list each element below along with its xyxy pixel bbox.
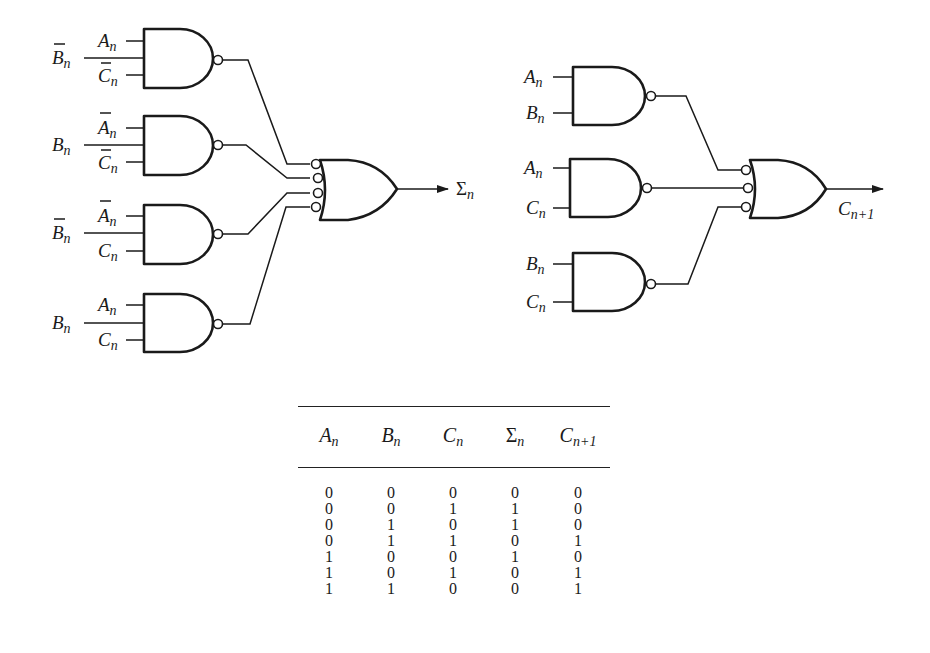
truth-table: An Bn Cn Σn Cn+1 00000 00110 01010 01101… — [298, 406, 610, 597]
cell: 0 — [422, 517, 484, 533]
inversion-bubble — [744, 184, 753, 193]
carry-nand-gate-2: An Cn — [522, 157, 652, 221]
cell: 1 — [546, 581, 610, 597]
inversion-bubble — [214, 230, 223, 239]
inversion-bubble — [312, 203, 321, 212]
input-label-a: An — [522, 157, 543, 181]
cell: 0 — [484, 468, 546, 502]
cell: 0 — [484, 581, 546, 597]
cell: 0 — [422, 468, 484, 502]
table-row: 10010 — [298, 549, 610, 565]
cell: 1 — [422, 501, 484, 517]
nand-gate-3: An Bn Cn — [52, 201, 223, 264]
cell: 1 — [484, 549, 546, 565]
cell: 0 — [422, 549, 484, 565]
carry-nand-gate-1: An Bn — [522, 66, 656, 126]
cell: 0 — [298, 501, 360, 517]
truth-table-header: An Bn Cn Σn Cn+1 — [298, 407, 610, 468]
table-row: 01101 — [298, 533, 610, 549]
input-label-c: Cn — [526, 197, 546, 221]
table-row: 10101 — [298, 565, 610, 581]
inversion-bubble — [742, 203, 751, 212]
inversion-bubble — [214, 56, 223, 65]
cell: 1 — [298, 549, 360, 565]
cell: 1 — [298, 565, 360, 581]
input-label-c: Cn — [526, 291, 546, 315]
inversion-bubble — [312, 160, 321, 169]
table-row: 00110 — [298, 501, 610, 517]
cell: 0 — [298, 468, 360, 502]
cell: 1 — [484, 517, 546, 533]
header-b: Bn — [360, 407, 422, 468]
cell: 0 — [360, 565, 422, 581]
cell: 0 — [360, 549, 422, 565]
input-label-b: Bn — [52, 134, 71, 158]
cell: 0 — [422, 581, 484, 597]
input-label-c: Cn — [98, 240, 118, 264]
cell: 0 — [360, 468, 422, 502]
header-sum: Σn — [484, 407, 546, 468]
cell: 0 — [298, 517, 360, 533]
sum-wires — [222, 60, 310, 324]
inversion-bubble — [742, 166, 751, 175]
or-gate-carry: Cn+1 — [742, 160, 884, 222]
header-a: An — [298, 407, 360, 468]
input-label-c: Cn — [98, 329, 118, 353]
nand-gate-2: An Bn Cn — [52, 113, 223, 176]
table-row: 00000 — [298, 468, 610, 502]
inversion-bubble — [214, 141, 223, 150]
header-carry-out: Cn+1 — [546, 407, 610, 468]
cell: 0 — [546, 501, 610, 517]
inversion-bubble — [643, 184, 652, 193]
input-label-c-bar: Cn — [98, 152, 118, 176]
inversion-bubble — [214, 320, 223, 329]
table-row: 01010 — [298, 517, 610, 533]
logic-diagram: An Bn Cn An Bn Cn An Bn Cn An — [0, 0, 930, 400]
input-label-c-bar: Cn — [98, 65, 118, 89]
cell: 0 — [546, 468, 610, 502]
output-label-carry: Cn+1 — [838, 198, 874, 222]
inversion-bubble — [647, 280, 656, 289]
header-c: Cn — [422, 407, 484, 468]
cell: 1 — [422, 565, 484, 581]
input-label-a-bar: An — [96, 117, 117, 141]
cell: 1 — [422, 533, 484, 549]
input-label-b: Bn — [526, 102, 545, 126]
table-row: 11001 — [298, 581, 610, 597]
nand-gate-1: An Bn Cn — [52, 29, 223, 89]
input-label-a: An — [96, 30, 117, 54]
cell: 1 — [360, 533, 422, 549]
cell: 1 — [484, 501, 546, 517]
cell: 0 — [298, 533, 360, 549]
carry-nand-gate-3: Bn Cn — [526, 253, 656, 315]
inversion-bubble — [647, 92, 656, 101]
nand-gate-4: An Bn Cn — [52, 294, 223, 353]
cell: 0 — [546, 517, 610, 533]
input-label-a: An — [522, 66, 543, 90]
cell: 1 — [298, 581, 360, 597]
input-label-b: Bn — [52, 312, 71, 336]
cell: 0 — [484, 565, 546, 581]
inversion-bubble — [314, 174, 323, 183]
input-label-a-bar: An — [96, 205, 117, 229]
cell: 1 — [546, 565, 610, 581]
cell: 0 — [360, 501, 422, 517]
input-label-b-bar: Bn — [52, 47, 71, 71]
inversion-bubble — [314, 189, 323, 198]
input-label-b: Bn — [526, 253, 545, 277]
output-label-sum: Σn — [456, 178, 474, 202]
cell: 0 — [484, 533, 546, 549]
input-label-b-bar: Bn — [52, 222, 71, 246]
cell: 1 — [546, 533, 610, 549]
input-label-a: An — [96, 294, 117, 318]
cell: 0 — [546, 549, 610, 565]
carry-wires — [651, 96, 743, 284]
cell: 1 — [360, 517, 422, 533]
cell: 1 — [360, 581, 422, 597]
or-gate-sum: Σn — [312, 160, 475, 221]
